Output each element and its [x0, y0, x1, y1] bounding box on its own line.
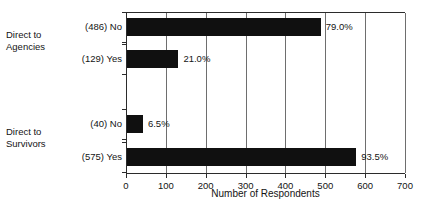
y-tick-1-1 [122, 74, 126, 75]
plot-area: 79.0%21.0%6.5%93.5% 01002003004005006007… [126, 12, 405, 174]
y-tick-1-0 [122, 44, 126, 45]
y-tick-0-1 [122, 42, 126, 43]
group-label-direct-to-survivors: Direct to Survivors [6, 126, 46, 149]
x-tick-200 [206, 174, 207, 178]
value-label-79.0: 79.0% [326, 18, 353, 36]
y-tick-0-0 [122, 12, 126, 13]
y-tick-3-1 [122, 172, 126, 173]
gridline-700 [405, 13, 406, 173]
x-tick-100 [166, 174, 167, 178]
y-tick-2-0 [122, 109, 126, 110]
x-tick-700 [405, 174, 406, 178]
bar-40-no [127, 115, 143, 133]
x-tick-0 [126, 174, 127, 178]
x-tick-600 [365, 174, 366, 178]
bar-label-486-no: (486) No [64, 21, 122, 32]
value-label-93.5: 93.5% [361, 148, 388, 166]
value-label-6.5: 6.5% [148, 115, 170, 133]
plot-top-border [126, 12, 405, 13]
x-tick-500 [325, 174, 326, 178]
x-tick-300 [246, 174, 247, 178]
y-tick-3-0 [122, 142, 126, 143]
bar-label-129-yes: (129) Yes [64, 53, 122, 64]
x-axis-title: Number of Respondents [126, 188, 405, 199]
bar-label-40-no: (40) No [64, 118, 122, 129]
bar-486-no [127, 18, 321, 36]
x-axis-line [126, 173, 405, 174]
x-tick-400 [285, 174, 286, 178]
value-label-21.0: 21.0% [183, 50, 210, 68]
bar-575-yes [127, 148, 356, 166]
y-tick-2-1 [122, 139, 126, 140]
bar-chart: Direct to Agencies Direct to Survivors (… [0, 0, 421, 211]
bar-label-575-yes: (575) Yes [64, 151, 122, 162]
group-label-direct-to-agencies: Direct to Agencies [6, 29, 45, 52]
bar-129-yes [127, 50, 178, 68]
